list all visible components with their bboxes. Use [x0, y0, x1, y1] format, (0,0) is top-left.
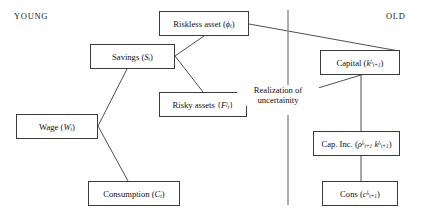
diagram-canvas: YOUNG OLD Wage (Wt) Savings (St) Consump… [0, 0, 422, 216]
node-cons[interactable]: Cons (cjtt+1) [322, 181, 398, 206]
realization-annotation-line2: uncertainity [237, 95, 319, 105]
node-capital-income[interactable]: Cap. Inc. (ρjtt+1 kjtt+1) [313, 131, 400, 156]
node-riskless-asset[interactable]: Riskless asset (ϕt) [159, 11, 249, 36]
node-cons-label: Cons (cjtt+1) [340, 189, 380, 199]
node-consumption-label: Consumption (Ct) [103, 189, 164, 199]
realization-annotation-line1: Realization of [237, 85, 319, 95]
node-risky-assets-label: Risky assets {Fjt} [173, 100, 234, 110]
old-label: OLD [386, 11, 406, 21]
node-savings-label: Savings (St) [112, 52, 153, 62]
edge-wage-consumption [98, 126, 128, 181]
node-capital-label: Capital (kjtt+1) [337, 58, 384, 68]
node-consumption[interactable]: Consumption (Ct) [88, 181, 180, 206]
node-risky-assets[interactable]: Risky assets {Fjt} [159, 92, 247, 117]
node-capital-income-label: Cap. Inc. (ρjtt+1 kjtt+1) [321, 139, 391, 149]
node-riskless-asset-label: Riskless asset (ϕt) [173, 19, 234, 29]
edge-wage-savings [98, 69, 127, 126]
edge-savings-risky [175, 56, 203, 92]
node-wage-label: Wage (Wt) [39, 122, 75, 132]
edge-riskless-capital [249, 24, 399, 51]
node-capital[interactable]: Capital (kjtt+1) [320, 50, 400, 75]
realization-annotation: Realization of uncertainity [237, 85, 319, 106]
node-savings[interactable]: Savings (St) [90, 44, 175, 69]
edge-savings-riskless [175, 36, 204, 56]
node-wage[interactable]: Wage (Wt) [16, 114, 98, 139]
young-label: YOUNG [14, 11, 48, 21]
